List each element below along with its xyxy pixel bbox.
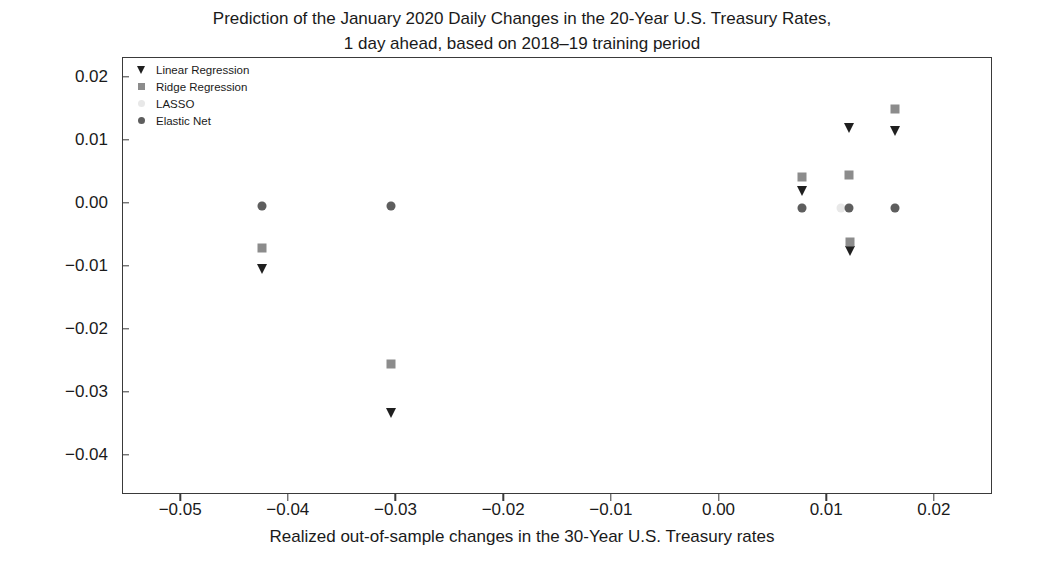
x-tick-mark — [825, 494, 826, 501]
data-point — [845, 246, 855, 256]
x-tick-label: −0.04 — [266, 500, 309, 520]
x-tick-mark — [179, 494, 180, 501]
data-point — [844, 203, 853, 212]
data-point — [891, 203, 900, 212]
legend-marker-icon — [133, 66, 149, 74]
data-point — [386, 408, 396, 418]
x-axis-label: Realized out-of-sample changes in the 30… — [0, 527, 1044, 547]
legend-marker-icon — [133, 83, 149, 90]
y-tick-mark — [122, 328, 129, 329]
data-point — [844, 170, 853, 179]
data-point — [257, 244, 266, 253]
legend-item-label: Elastic Net — [156, 115, 211, 127]
data-point — [387, 360, 396, 369]
x-tick-label: 0.02 — [917, 500, 950, 520]
chart-title: Prediction of the January 2020 Daily Cha… — [0, 6, 1044, 56]
x-tick-label: −0.01 — [589, 500, 632, 520]
data-point — [257, 201, 266, 210]
x-tick-mark — [287, 494, 288, 501]
data-point — [844, 123, 854, 133]
data-point — [891, 105, 900, 114]
legend-item-label: Linear Regression — [156, 64, 249, 76]
data-point — [257, 264, 267, 274]
x-tick-mark — [610, 494, 611, 501]
x-tick-mark — [395, 494, 396, 501]
y-tick-label: 0.00 — [30, 193, 108, 213]
y-tick-label: −0.01 — [30, 256, 108, 276]
x-tick-mark — [718, 494, 719, 501]
data-point — [798, 203, 807, 212]
data-point — [890, 126, 900, 136]
x-tick-label: −0.02 — [482, 500, 525, 520]
legend-item[interactable]: Ridge Regression — [133, 79, 323, 94]
y-tick-mark — [122, 391, 129, 392]
x-tick-label: −0.03 — [374, 500, 417, 520]
y-tick-mark — [122, 139, 129, 140]
x-tick-mark — [933, 494, 934, 501]
y-tick-label: −0.03 — [30, 382, 108, 402]
y-tick-label: −0.04 — [30, 445, 108, 465]
legend-marker-icon — [133, 117, 149, 124]
y-tick-label: −0.02 — [30, 319, 108, 339]
legend-item[interactable]: Linear Regression — [133, 62, 323, 77]
y-tick-mark — [122, 76, 129, 77]
chart-root: Prediction of the January 2020 Daily Cha… — [0, 0, 1044, 572]
y-tick-mark — [122, 202, 129, 203]
y-tick-mark — [122, 265, 129, 266]
legend-item-label: LASSO — [156, 98, 194, 110]
legend-marker-icon — [133, 100, 149, 107]
data-point — [845, 237, 854, 246]
y-tick-mark — [122, 454, 129, 455]
x-tick-mark — [502, 494, 503, 501]
legend-item[interactable]: Elastic Net — [133, 113, 323, 128]
chart-title-line-1: Prediction of the January 2020 Daily Cha… — [0, 6, 1044, 31]
legend-item[interactable]: LASSO — [133, 96, 323, 111]
chart-legend: Linear RegressionRidge RegressionLASSOEl… — [133, 62, 323, 130]
data-point — [797, 186, 807, 196]
legend-item-label: Ridge Regression — [156, 81, 247, 93]
data-point — [798, 172, 807, 181]
chart-title-line-2: 1 day ahead, based on 2018–19 training p… — [0, 31, 1044, 56]
y-tick-label: 0.01 — [30, 130, 108, 150]
x-tick-label: −0.05 — [159, 500, 202, 520]
data-point — [387, 201, 396, 210]
y-tick-label: 0.02 — [30, 67, 108, 87]
x-tick-label: 0.01 — [810, 500, 843, 520]
x-tick-label: 0.00 — [702, 500, 735, 520]
